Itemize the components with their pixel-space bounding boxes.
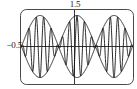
top-tick-label: 1.5 bbox=[63, 0, 87, 9]
waveform-figure: 1.5 −0.5 bbox=[0, 0, 137, 89]
left-tick-label: −0.5 bbox=[1, 41, 22, 50]
